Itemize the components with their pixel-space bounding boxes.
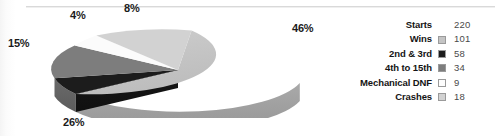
legend-label-crashes: Crashes [344,90,432,104]
legend-value-second-third: 58 [452,47,490,61]
legend-swatch-starts [438,21,446,29]
legend-value-mechanical-dnf: 9 [452,76,490,90]
legend-swatch-crashes [438,93,446,101]
pie-callout-crashes: 8% [124,2,140,14]
pie-svg [38,22,318,118]
legend-value-starts: 220 [452,18,490,32]
legend-label-fourth-fifteenth: 4th to 15th [344,61,432,75]
legend-row-fourth-fifteenth: 4th to 15th 34 [344,61,490,75]
legend-swatch-cell-fourth-fifteenth [432,64,452,72]
pie-callout-mechanical-dnf: 4% [70,9,86,21]
legend-value-wins: 101 [452,32,490,46]
legend-swatch-second-third [438,50,446,58]
legend-label-mechanical-dnf: Mechanical DNF [344,76,432,90]
legend-label-starts: Starts [344,18,432,32]
legend-swatch-cell-crashes [432,93,452,101]
legend-swatch-cell-starts [432,21,452,29]
legend-swatch-cell-second-third [432,50,452,58]
legend-swatch-wins [438,36,446,44]
pie-callout-second-third: 26% [63,116,84,128]
legend-row-mechanical-dnf: Mechanical DNF 9 [344,76,490,90]
legend-value-crashes: 18 [452,90,490,104]
legend-row-crashes: Crashes 18 [344,90,490,104]
legend-row-starts: Starts 220 [344,18,490,32]
legend-label-wins: Wins [344,32,432,46]
pie-graphic [38,22,318,118]
legend-row-wins: Wins 101 [344,32,490,46]
chart-page: 46% 26% 15% 4% 8% Starts 220 Wins 101 2n… [0,0,495,136]
legend-swatch-fourth-fifteenth [438,64,446,72]
legend-label-second-third: 2nd & 3rd [344,47,432,61]
legend-swatch-cell-wins [432,36,452,44]
chart-legend: Starts 220 Wins 101 2nd & 3rd 58 4th to … [344,18,490,104]
legend-row-second-third: 2nd & 3rd 58 [344,47,490,61]
legend-value-fourth-fifteenth: 34 [452,61,490,75]
pie-callout-fourth-fifteenth: 15% [8,37,29,49]
legend-swatch-mechanical-dnf [438,79,446,87]
pie-chart: 46% 26% 15% 4% 8% [0,0,345,136]
legend-swatch-cell-mechanical-dnf [432,79,452,87]
pie-callout-wins: 46% [292,22,313,34]
